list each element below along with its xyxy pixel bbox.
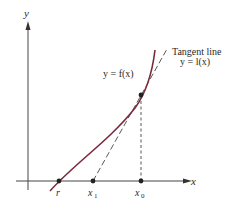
x1-subscript: 1 xyxy=(94,192,98,200)
curve-label: y = f(x) xyxy=(103,68,134,80)
root-point xyxy=(57,179,62,184)
root-label: r xyxy=(56,187,60,198)
y-axis-arrow-icon xyxy=(26,21,31,30)
tangent-point xyxy=(139,93,144,98)
newton-method-diagram: y x Tangent line y = l(x) y = f(x) r x 1… xyxy=(0,0,236,202)
x1-point xyxy=(91,179,96,184)
x0-subscript: 0 xyxy=(141,192,145,200)
tangent-label-line2: y = l(x) xyxy=(180,56,210,68)
x0-point xyxy=(139,179,144,184)
x1-label: x xyxy=(87,187,93,198)
x0-label: x xyxy=(134,187,140,198)
y-axis-label: y xyxy=(23,7,29,19)
x-axis-label: x xyxy=(190,175,196,187)
